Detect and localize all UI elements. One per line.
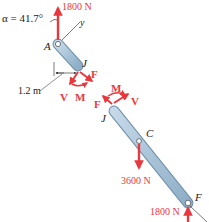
force-label-bottom: 1800 N	[150, 206, 180, 217]
shear-v-upper: V	[60, 91, 68, 103]
pin-a	[55, 41, 60, 46]
axis-line-lower	[190, 206, 207, 222]
point-f-label: F	[194, 191, 202, 203]
force-label-top: 1800 N	[62, 1, 92, 12]
member-lower	[114, 111, 188, 203]
y-axis-label: y	[79, 17, 85, 28]
y-axis-line	[60, 22, 80, 42]
point-a-label: A	[43, 40, 51, 52]
internal-forces-upper	[70, 72, 92, 86]
point-c	[137, 139, 142, 144]
dimension-label: 1.2 m	[18, 85, 41, 96]
internal-forces-lower	[103, 93, 128, 104]
point-j-upper-label: J	[82, 57, 88, 69]
normal-f-upper: F	[91, 68, 98, 80]
point-c-label: C	[146, 127, 154, 139]
moment-m-upper: M	[75, 91, 86, 103]
dimension-1-2m	[40, 62, 76, 91]
free-body-diagram: α = 41.7° y A 1800 N 1.2 m J V M F F M V…	[0, 0, 209, 222]
member-upper	[58, 44, 78, 66]
point-j-lower-label: J	[101, 112, 107, 124]
pin-f	[185, 200, 191, 206]
moment-m-lower: M	[111, 82, 122, 94]
shear-v-lower: V	[131, 95, 139, 107]
normal-f-lower: F	[94, 98, 101, 110]
angle-label: α = 41.7°	[2, 12, 43, 24]
force-label-center: 3600 N	[121, 175, 151, 186]
